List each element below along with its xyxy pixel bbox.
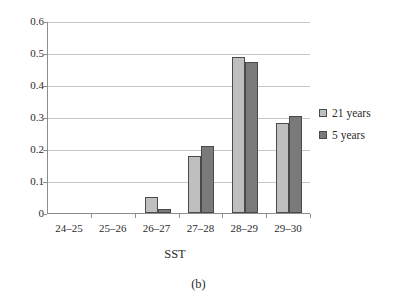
- bar: [145, 197, 158, 213]
- x-tick-label: 25–26: [91, 222, 135, 234]
- plot-area: [47, 22, 310, 214]
- chart-legend: 21 years5 years: [319, 104, 395, 148]
- gridline: [48, 86, 310, 87]
- x-tick-label: 26–27: [135, 222, 179, 234]
- x-tick-mark: [179, 214, 180, 218]
- x-axis-title: SST: [0, 247, 350, 261]
- x-tick-label: 28–29: [222, 222, 266, 234]
- x-tick-mark: [310, 214, 311, 218]
- y-tick-label: 0.5: [30, 48, 44, 59]
- gridline: [48, 182, 310, 183]
- legend-swatch-icon: [319, 109, 327, 117]
- gridline: [48, 150, 310, 151]
- bar: [289, 116, 302, 213]
- bar: [245, 62, 258, 213]
- bar: [232, 57, 245, 213]
- gridline: [48, 54, 310, 55]
- bar: [158, 209, 171, 213]
- x-tick-mark: [135, 214, 136, 218]
- y-tick-mark: [43, 214, 47, 215]
- x-tick-mark: [266, 214, 267, 218]
- figure-caption: (b): [0, 277, 397, 291]
- y-tick-label: 0.2: [30, 144, 44, 155]
- gridline: [48, 22, 310, 23]
- bar: [276, 123, 289, 213]
- bar: [188, 156, 201, 213]
- y-tick-label: 0.4: [30, 80, 44, 91]
- x-tick-label: 29–30: [266, 222, 310, 234]
- y-tick-label: 0.3: [30, 112, 44, 123]
- x-tick-mark: [222, 214, 223, 218]
- legend-item[interactable]: 21 years: [319, 104, 395, 121]
- x-tick-label: 27–28: [179, 222, 223, 234]
- gridline: [48, 118, 310, 119]
- y-tick-label: 0.1: [30, 176, 44, 187]
- legend-swatch-icon: [319, 131, 327, 139]
- y-tick-label: 0.6: [30, 16, 44, 27]
- legend-label: 5 years: [332, 129, 365, 141]
- legend-label: 21 years: [332, 107, 371, 119]
- bar: [201, 146, 214, 213]
- figure-container: 00.10.20.30.40.50.6 24–2525–2626–2727–28…: [0, 0, 397, 301]
- x-tick-label: 24–25: [47, 222, 91, 234]
- x-tick-mark: [91, 214, 92, 218]
- legend-item[interactable]: 5 years: [319, 126, 395, 143]
